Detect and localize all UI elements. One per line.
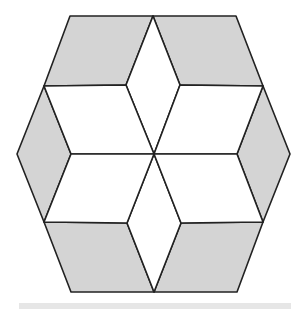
- footer-bar: [19, 303, 291, 309]
- hexagon-rhombus-diagram: [0, 0, 308, 309]
